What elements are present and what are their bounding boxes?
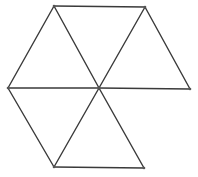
- edge-center-bottom-right: [99, 88, 144, 168]
- diagram-canvas: [0, 0, 198, 177]
- vertex-center: [98, 87, 101, 90]
- edge-center-bottom-left: [54, 88, 99, 167]
- edge-top-left-top-right: [54, 6, 145, 7]
- vertex-left: [7, 87, 10, 90]
- edge-top-left-left: [8, 6, 54, 88]
- vertex-top-left: [53, 5, 56, 8]
- vertex-bottom-left: [53, 166, 56, 169]
- edge-center-right: [99, 88, 190, 89]
- edge-top-right-center: [99, 7, 145, 88]
- vertex-right: [189, 88, 192, 91]
- vertices-group: [7, 5, 192, 170]
- edge-top-right-right: [145, 7, 190, 89]
- vertex-bottom-right: [143, 167, 146, 170]
- triangle-hexagon-figure: [0, 0, 198, 177]
- edge-top-left-center: [54, 6, 99, 88]
- edge-left-bottom-left: [8, 88, 54, 167]
- edge-bottom-left-bottom-right: [54, 167, 144, 168]
- vertex-top-right: [144, 6, 147, 9]
